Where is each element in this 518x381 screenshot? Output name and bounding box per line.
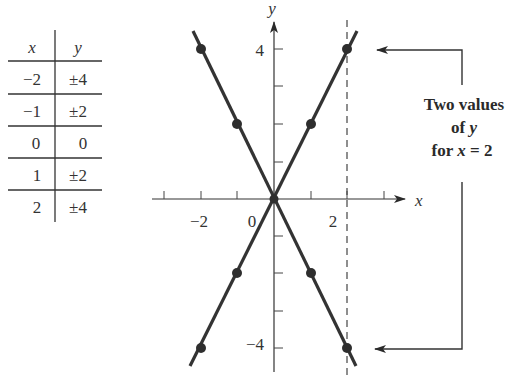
point — [270, 195, 279, 204]
point — [342, 44, 352, 54]
x-tick-label-2: 2 — [329, 212, 338, 231]
x-axis-label: x — [414, 191, 423, 210]
table-cell-y: ±4 — [69, 70, 87, 89]
point — [342, 343, 352, 353]
table-cell-y: ±4 — [69, 198, 87, 217]
graph: y x −2 0 2 4 −4 — [152, 0, 423, 378]
point — [196, 44, 206, 54]
x-tick-label-0: 0 — [248, 212, 257, 231]
table-cell-x: 1 — [33, 166, 42, 185]
table-cell-x: −1 — [23, 102, 41, 121]
y-tick-label-neg4: −4 — [246, 335, 265, 354]
annotation-line-1: Two values — [424, 95, 505, 114]
table-cell-x: 0 — [32, 134, 41, 153]
table-cell-y: 0 — [79, 134, 88, 153]
table-cell-x: −2 — [23, 70, 41, 89]
point — [232, 119, 242, 129]
value-table: x y −2 ±4 −1 ±2 0 0 1 ±2 2 ±4 — [8, 30, 102, 222]
y-tick-label-4: 4 — [256, 41, 265, 60]
table-cell-y: ±2 — [69, 102, 87, 121]
annotation-line-3: for x = 2 — [432, 141, 493, 160]
table-cell-x: 2 — [33, 198, 42, 217]
y-axis-label: y — [266, 0, 276, 18]
figure-canvas: x y −2 ±4 −1 ±2 0 0 1 ±2 2 ±4 — [0, 0, 518, 381]
x-tick-label-neg2: −2 — [190, 212, 208, 231]
table-cell-y: ±2 — [69, 166, 87, 185]
point — [196, 343, 206, 353]
table-header-y: y — [72, 38, 82, 57]
point — [306, 268, 316, 278]
table-header-x: x — [27, 38, 36, 57]
point — [232, 268, 242, 278]
point — [306, 119, 316, 129]
upper-arrow — [377, 50, 462, 85]
annotation-line-2: of y — [451, 118, 477, 137]
